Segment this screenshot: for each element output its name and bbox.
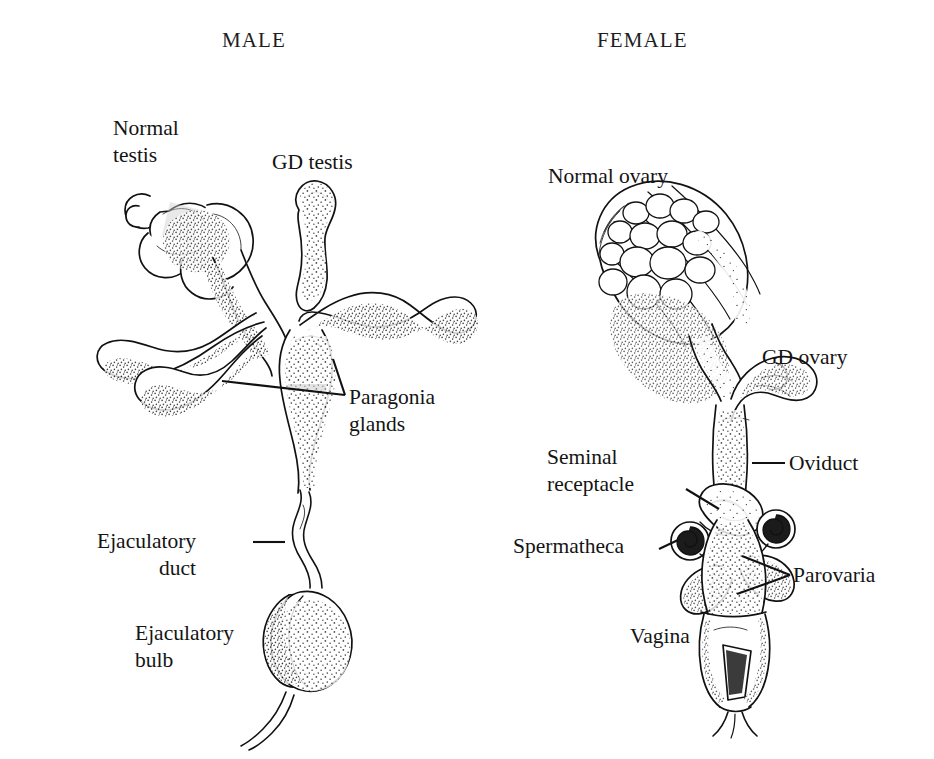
ejaculatory-bulb-drawing xyxy=(241,591,352,750)
figure-canvas: MALE FEMALE xyxy=(0,0,934,759)
leader-paragonia-upper xyxy=(222,381,345,395)
lateral-oviduct-left-drawing xyxy=(689,324,741,401)
label-seminal-receptacle: Seminal receptacle xyxy=(547,444,634,498)
leader-seminal-receptacle xyxy=(686,489,719,509)
label-spermatheca: Spermatheca xyxy=(513,533,624,560)
label-normal-testis-line2: testis xyxy=(113,142,179,169)
label-ejaculatory-duct-line2: duct xyxy=(97,555,196,582)
label-oviduct: Oviduct xyxy=(789,450,858,477)
vas-deferens-left-drawing xyxy=(202,250,287,376)
leader-paragonia-lower xyxy=(333,359,345,395)
label-paragonia-glands: Paragonia glands xyxy=(349,384,435,438)
panel-title-female: FEMALE xyxy=(597,28,688,53)
label-paragonia-line1: Paragonia xyxy=(349,384,435,411)
label-ejaculatory-duct: Ejaculatory duct xyxy=(97,528,196,582)
common-oviduct-drawing xyxy=(713,405,749,522)
spermatheca-right-drawing xyxy=(749,510,795,562)
label-normal-testis-line1: Normal xyxy=(113,115,179,142)
seminal-receptacle-drawing xyxy=(699,484,762,536)
label-gd-ovary: GD ovary xyxy=(762,344,847,371)
normal-testis-drawing xyxy=(125,194,253,299)
label-ejaculatory-bulb-line2: bulb xyxy=(135,647,234,674)
parovaria-left-drawing xyxy=(681,566,732,614)
leader-parovaria-upper xyxy=(742,556,790,575)
ovariole-follicles xyxy=(599,194,719,309)
label-ejaculatory-bulb: Ejaculatory bulb xyxy=(135,620,234,674)
parovaria-right-drawing xyxy=(740,555,794,601)
label-ejaculatory-duct-line1: Ejaculatory xyxy=(97,528,196,555)
panel-title-male: MALE xyxy=(222,28,286,53)
leader-spermatheca xyxy=(659,540,678,549)
vagina-drawing xyxy=(699,614,769,738)
common-ejaculatory-region-drawing xyxy=(279,330,335,493)
label-seminal-receptacle-line1: Seminal xyxy=(547,444,634,471)
label-normal-testis: Normal testis xyxy=(113,115,179,169)
label-parovaria: Parovaria xyxy=(793,562,875,589)
gd-testis-drawing xyxy=(296,181,336,311)
normal-ovary-drawing xyxy=(596,181,760,404)
bursa-chamber-drawing xyxy=(701,520,766,617)
leader-parovaria-lower xyxy=(737,575,790,594)
leader-lines xyxy=(222,359,790,594)
label-vagina: Vagina xyxy=(630,623,690,650)
label-normal-ovary: Normal ovary xyxy=(548,163,668,190)
ejaculatory-duct-drawing xyxy=(292,490,322,588)
label-gd-testis: GD testis xyxy=(272,149,353,176)
label-seminal-receptacle-line2: receptacle xyxy=(547,471,634,498)
label-paragonia-line2: glands xyxy=(349,411,435,438)
spermatheca-left-drawing xyxy=(671,522,724,568)
label-ejaculatory-bulb-line1: Ejaculatory xyxy=(135,620,234,647)
